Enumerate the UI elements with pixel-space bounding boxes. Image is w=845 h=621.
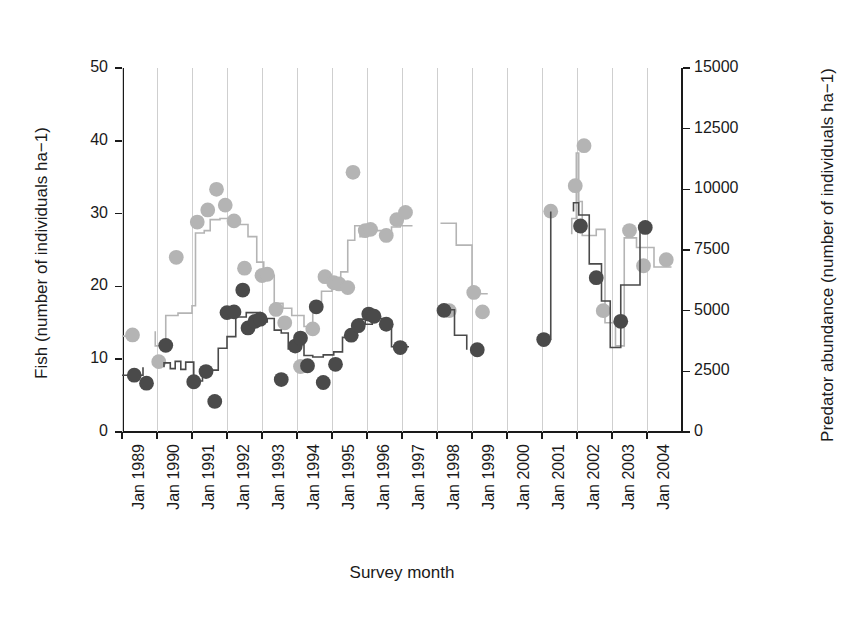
data-point xyxy=(470,342,485,357)
y-right-tick-12500 xyxy=(683,128,690,130)
data-point xyxy=(125,328,140,343)
x-tick-2004 xyxy=(646,432,648,439)
data-point xyxy=(227,213,242,228)
data-point xyxy=(269,302,284,317)
x-tick-1995 xyxy=(331,432,333,439)
x-axis-title: Survey month xyxy=(122,563,682,583)
series-line xyxy=(441,223,488,293)
x-tick-1991 xyxy=(191,432,193,439)
y-right-tick-label-15000: 15000 xyxy=(694,58,764,76)
x-tick-label-1994: Jan 1994 xyxy=(305,444,323,542)
x-tick-1992 xyxy=(226,432,228,439)
y-right-tick-label-5000: 5000 xyxy=(694,301,764,319)
data-point xyxy=(200,203,215,218)
data-point xyxy=(260,267,275,282)
y-left-tick-label-30: 30 xyxy=(60,204,108,222)
data-point xyxy=(277,315,292,330)
x-tick-1993 xyxy=(261,432,263,439)
data-point xyxy=(274,372,289,387)
x-tick-label-1999: Jan 1999 xyxy=(480,444,498,542)
data-point xyxy=(253,312,268,327)
data-point xyxy=(158,338,173,353)
data-point xyxy=(139,376,154,391)
data-point xyxy=(316,375,331,390)
x-tick-label-1992: Jan 1992 xyxy=(235,444,253,542)
x-tick-label-1990: Jan 1990 xyxy=(165,444,183,542)
x-tick-label-2000: Jan 2000 xyxy=(515,444,533,542)
data-point xyxy=(186,374,201,389)
data-point xyxy=(209,182,224,197)
data-point xyxy=(466,285,481,300)
y-right-tick-label-0: 0 xyxy=(694,422,764,440)
x-tick-1989 xyxy=(121,432,123,439)
data-point xyxy=(393,340,408,355)
y-left-tick-40 xyxy=(115,140,122,142)
y-axis-left-title: Fish (number of individuals ha−1) xyxy=(32,58,58,448)
data-point xyxy=(589,270,604,285)
data-point xyxy=(293,331,308,346)
y-right-tick-label-12500: 12500 xyxy=(694,119,764,137)
data-point xyxy=(613,314,628,329)
y-right-tick-label-2500: 2500 xyxy=(694,361,764,379)
data-point xyxy=(346,165,361,180)
series-predator-abundance xyxy=(122,138,674,374)
x-tick-label-1993: Jan 1993 xyxy=(270,444,288,542)
data-point xyxy=(227,304,242,319)
y-axis-right-title: Predator abundance (number of individual… xyxy=(818,40,844,470)
data-point xyxy=(573,219,588,234)
data-point xyxy=(351,318,366,333)
y-left-tick-label-0: 0 xyxy=(60,422,108,440)
y-left-tick-label-50: 50 xyxy=(60,58,108,76)
series-canvas xyxy=(122,68,682,432)
x-tick-label-2003: Jan 2003 xyxy=(620,444,638,542)
y-right-tick-10000 xyxy=(683,189,690,191)
y-right-tick-5000 xyxy=(683,310,690,312)
x-tick-label-2002: Jan 2002 xyxy=(585,444,603,542)
y-right-tick-0 xyxy=(683,431,690,433)
data-point xyxy=(379,317,394,332)
y-right-tick-2500 xyxy=(683,371,690,373)
data-point xyxy=(363,222,378,237)
y-left-tick-50 xyxy=(115,67,122,69)
y-right-tick-15000 xyxy=(683,67,690,69)
x-tick-1996 xyxy=(366,432,368,439)
x-tick-1994 xyxy=(296,432,298,439)
data-point xyxy=(437,303,452,318)
x-tick-1990 xyxy=(156,432,158,439)
data-point xyxy=(328,357,343,372)
data-point xyxy=(199,364,214,379)
y-left-tick-20 xyxy=(115,286,122,288)
x-tick-1997 xyxy=(401,432,403,439)
data-point xyxy=(169,250,184,265)
x-tick-2001 xyxy=(541,432,543,439)
y-left-tick-30 xyxy=(115,213,122,215)
x-tick-label-2001: Jan 2001 xyxy=(550,444,568,542)
x-tick-label-1989: Jan 1989 xyxy=(130,444,148,542)
series-line xyxy=(537,211,551,339)
data-point xyxy=(475,304,490,319)
x-tick-label-1997: Jan 1997 xyxy=(410,444,428,542)
data-point xyxy=(638,220,653,235)
data-point xyxy=(622,223,637,238)
x-tick-2000 xyxy=(506,432,508,439)
data-point xyxy=(190,215,205,230)
x-tick-1999 xyxy=(471,432,473,439)
chart-figure: Fish (number of individuals ha−1) Predat… xyxy=(0,0,845,621)
x-tick-label-1995: Jan 1995 xyxy=(340,444,358,542)
data-point xyxy=(309,299,324,314)
data-point xyxy=(127,368,142,383)
x-tick-1998 xyxy=(436,432,438,439)
x-tick-label-1998: Jan 1998 xyxy=(445,444,463,542)
data-point xyxy=(398,205,413,220)
data-point xyxy=(636,258,651,273)
y-left-tick-label-20: 20 xyxy=(60,276,108,294)
data-point xyxy=(237,261,252,276)
data-point xyxy=(536,332,551,347)
y-right-tick-label-10000: 10000 xyxy=(694,179,764,197)
data-point xyxy=(379,228,394,243)
data-point xyxy=(235,283,250,298)
y-left-tick-10 xyxy=(115,358,122,360)
plot-area xyxy=(122,68,682,432)
data-point xyxy=(367,309,382,324)
data-point xyxy=(577,138,592,153)
